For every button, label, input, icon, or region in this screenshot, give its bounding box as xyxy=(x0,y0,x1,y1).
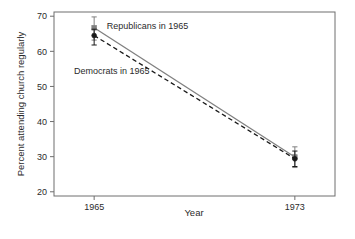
data-point-marker xyxy=(292,156,297,161)
series-annotation-label: Democrats in 1965 xyxy=(74,66,150,76)
y-axis-tick-label: 40 xyxy=(37,117,47,127)
chart-container: 203040506070 19651973 Republicans in 196… xyxy=(0,0,355,239)
y-axis-tick-label: 20 xyxy=(37,187,47,197)
x-axis-tick-label: 1965 xyxy=(84,202,104,212)
y-axis-tick-label: 30 xyxy=(37,152,47,162)
y-axis-tick-label: 60 xyxy=(37,47,47,57)
x-axis-title: Year xyxy=(184,207,203,218)
series-annotation-label: Republicans in 1965 xyxy=(107,21,189,31)
y-axis-tick-label: 50 xyxy=(37,82,47,92)
church-attendance-line-chart: 203040506070 19651973 Republicans in 196… xyxy=(0,0,355,239)
y-axis-tick-label: 70 xyxy=(37,11,47,21)
x-axis-tick-label: 1973 xyxy=(285,202,305,212)
data-point-marker xyxy=(92,33,97,38)
y-axis-title: Percent attending church regularly xyxy=(15,31,26,176)
